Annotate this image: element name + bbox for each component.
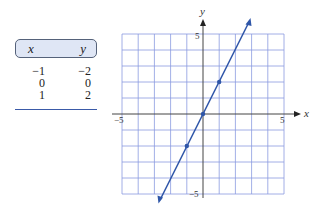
x-axis-label: x bbox=[303, 107, 309, 119]
line-arrow-top-icon bbox=[246, 18, 252, 26]
point-neg1-neg2 bbox=[185, 144, 189, 148]
tick-x-max: 5 bbox=[280, 115, 285, 125]
coordinate-graph: x y −5 5 5 −5 bbox=[0, 0, 326, 212]
x-axis-arrow-icon bbox=[294, 111, 301, 117]
point-0-0 bbox=[201, 112, 205, 116]
tick-x-min: −5 bbox=[114, 115, 124, 125]
y-axis-label: y bbox=[199, 5, 205, 17]
point-1-2 bbox=[217, 80, 221, 84]
y-axis-arrow-icon bbox=[200, 19, 206, 26]
tick-y-min: −5 bbox=[189, 189, 199, 199]
tick-y-max: 5 bbox=[195, 31, 200, 41]
plotted-line bbox=[158, 18, 252, 204]
